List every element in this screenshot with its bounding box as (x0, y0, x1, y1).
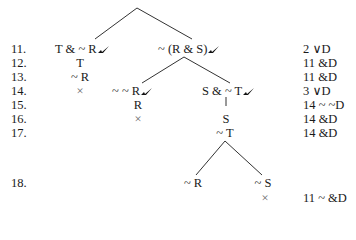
justification-close: 11 ~ &D (303, 192, 347, 205)
node-12: T (76, 57, 84, 70)
formula: ~ (R & S) (158, 42, 207, 56)
line-number-18: 18. (11, 177, 27, 190)
justification-16: 14 &D (303, 113, 337, 126)
line-number-15: 15. (11, 99, 27, 112)
justification-12: 11 &D (303, 57, 337, 70)
justification-15: 14 ~ ~D (303, 99, 344, 112)
close-mark-icon: × (261, 192, 268, 205)
node-18-right: ~ S (255, 177, 272, 190)
node-18-left: ~ R (184, 177, 202, 190)
justification-14: 3 ∨D (303, 85, 331, 98)
line-number-17: 17. (11, 127, 27, 140)
line-number-16: 16. (11, 113, 27, 126)
checked-icon (208, 45, 219, 54)
formula: S & ~ T (202, 84, 242, 98)
line-number-11: 11. (11, 43, 26, 56)
checked-icon (98, 45, 109, 54)
line-number-13: 13. (11, 71, 27, 84)
node-11-left: T & ~ R (55, 43, 109, 56)
line-number-14: 14. (11, 85, 27, 98)
close-mark-icon: × (76, 85, 83, 98)
justification-17: 14 &D (303, 127, 337, 140)
node-17: ~ T (216, 127, 233, 140)
node-16: S (223, 113, 230, 126)
justification-11: 2 ∨D (303, 43, 331, 56)
node-11-right: ~ (R & S) (158, 43, 219, 56)
justification-13: 11 &D (303, 71, 337, 84)
node-14-right: S & ~ T (202, 85, 254, 98)
line-number-12: 12. (11, 57, 27, 70)
node-15: R (134, 99, 142, 112)
node-14-left: ~ ~ R (112, 85, 152, 98)
checked-icon (243, 87, 254, 96)
node-13: ~ R (71, 71, 89, 84)
close-mark-icon: × (134, 113, 141, 126)
checked-icon (141, 87, 152, 96)
formula: T & ~ R (55, 42, 97, 56)
formula: ~ ~ R (112, 84, 140, 98)
